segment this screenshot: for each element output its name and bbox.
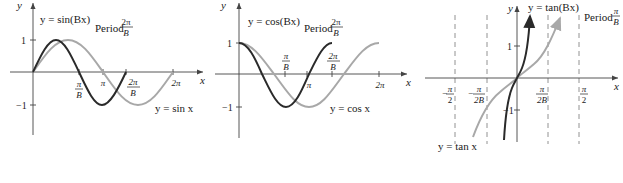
svg-text:π: π	[307, 80, 312, 90]
svg-text:π: π	[101, 78, 106, 88]
svg-text:π: π	[77, 79, 82, 89]
sin-x-label: y = sin x	[155, 102, 194, 114]
svg-text:π: π	[284, 51, 289, 61]
svg-text:B: B	[76, 90, 82, 100]
svg-text:−: −	[468, 88, 473, 98]
svg-text:2π: 2π	[171, 78, 181, 88]
svg-text:2π: 2π	[128, 77, 138, 87]
svg-text:2π: 2π	[375, 80, 385, 90]
period-label: Period	[584, 11, 613, 23]
tick-y-neg1: −1	[16, 100, 27, 111]
svg-text:1: 1	[507, 41, 512, 52]
svg-text:−1: −1	[222, 102, 233, 113]
svg-text:2π: 2π	[328, 51, 338, 61]
svg-text:π: π	[540, 84, 545, 94]
tick-y-1: 1	[21, 35, 26, 46]
svg-text:−: −	[442, 88, 447, 98]
tangent-panel: y x y = tan(Bx) Period π B 1 −1 − π 2 − …	[425, 1, 620, 152]
svg-text:−1: −1	[503, 105, 514, 116]
sine-panel: y x y = sin(Bx) Period 2π B 1 −1 π B π 2…	[10, 0, 205, 135]
tan-x-label: y = tan x	[438, 140, 477, 152]
svg-text:B: B	[130, 88, 136, 98]
svg-text:2: 2	[582, 95, 587, 105]
y-axis-label: y	[507, 2, 513, 14]
svg-text:π: π	[614, 6, 619, 16]
svg-text:B: B	[283, 62, 289, 72]
y-axis-label: y	[16, 0, 22, 11]
svg-text:B: B	[333, 28, 339, 38]
x-axis-label: x	[199, 74, 205, 86]
sin-bx-label: y = sin(Bx)	[40, 13, 91, 26]
cos-bx-label: y = cos(Bx)	[248, 15, 300, 28]
svg-text:B: B	[613, 17, 619, 27]
svg-text:2π: 2π	[121, 17, 131, 27]
x-axis-label: x	[613, 80, 619, 92]
trig-diagram: y x y = sin(Bx) Period 2π B 1 −1 π B π 2…	[0, 0, 623, 183]
x-axis-label: x	[405, 76, 411, 88]
svg-text:2B: 2B	[474, 95, 485, 105]
svg-text:1: 1	[227, 38, 232, 49]
cos-x-label: y = cos x	[330, 102, 371, 114]
cosine-panel: y x y = cos(Bx) Period 2π B 1 −1 π B π 2…	[215, 0, 411, 138]
sin-x-curve	[33, 40, 173, 105]
period-label: Period	[304, 22, 333, 34]
svg-text:2: 2	[448, 95, 453, 105]
svg-text:B: B	[330, 62, 336, 72]
svg-text:2π: 2π	[331, 17, 341, 27]
period-label: Period	[95, 22, 124, 34]
tan-bx-label: y = tan(Bx)	[528, 1, 579, 14]
svg-text:π: π	[582, 84, 587, 94]
y-axis-label: y	[220, 0, 226, 11]
svg-text:π: π	[448, 84, 453, 94]
svg-text:B: B	[123, 28, 129, 38]
svg-text:π: π	[477, 84, 482, 94]
svg-text:2B: 2B	[537, 95, 548, 105]
